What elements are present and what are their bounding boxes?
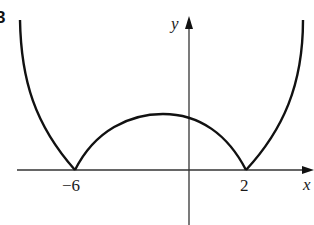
curve-left-branch [20, 20, 75, 170]
x-tick-2: 2 [240, 176, 249, 196]
y-axis-label: y [171, 14, 179, 34]
curve-arch [75, 114, 246, 170]
y-axis-arrow-icon [185, 16, 193, 29]
curve-right-branch [246, 20, 303, 170]
x-axis-arrow-icon [302, 166, 314, 174]
x-axis-label: x [303, 175, 311, 195]
x-tick-neg6: −6 [62, 176, 80, 196]
chart-plot [0, 0, 314, 225]
